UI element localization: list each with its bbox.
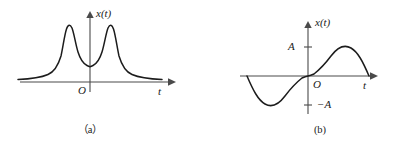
figure-root: x(t) O t （a） x(t) A −A O t (0, 0, 399, 148)
panel-a-y-axis (86, 11, 93, 92)
panel-b-amplitude-label: A (288, 41, 295, 52)
panel-b-x-axis-label: t (363, 80, 366, 91)
panel-a-origin-label: O (78, 85, 86, 96)
panel-a-caption: （a） (70, 125, 110, 136)
panel-a-y-axis-label: x(t) (96, 8, 111, 19)
panel-a-x-axis-label: t (158, 86, 161, 97)
panel-b-negative-amplitude-label: −A (317, 99, 331, 110)
panel-b-origin-label: O (313, 79, 321, 90)
panel-b-y-axis-label: x(t) (315, 17, 330, 28)
panel-b: x(t) A −A O t (b) (200, 0, 399, 148)
panel-b-caption: (b) (300, 125, 340, 136)
panel-b-y-axis (304, 21, 311, 114)
panel-a: x(t) O t （a） (0, 0, 200, 148)
